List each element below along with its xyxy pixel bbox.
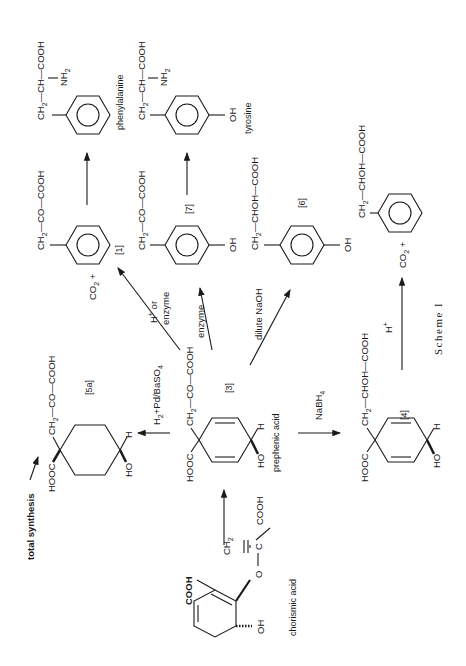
svg-text:COOH: COOH (254, 496, 265, 525)
compound-5a-label: [5a] (84, 380, 94, 395)
svg-text:CH2—CH—COOH: CH2—CH—COOH (35, 41, 48, 120)
svg-text:C: C (253, 543, 264, 550)
cyclohexadiene-ring-icon (199, 418, 251, 462)
phenyllactic-structure: CH2—CHOH—COOH CO2 + (356, 125, 422, 268)
svg-text:O: O (253, 571, 264, 578)
prephenic-acid-structure: CH2—CO—COOH HOOC H HO [3] prephenic acid (184, 346, 281, 482)
svg-text:HO: HO (255, 454, 266, 468)
reagent-nabh4: NaBH4 (313, 391, 326, 420)
scheme-title: Scheme I (432, 302, 444, 355)
svg-text:H: H (431, 423, 442, 430)
svg-text:CO2 +: CO2 + (397, 241, 410, 268)
svg-text:HO: HO (123, 463, 134, 477)
reagent-h-plus: H+ (382, 322, 394, 333)
arrow-total-synthesis (30, 457, 38, 480)
reaction-scheme: CH2—CH—COOH NH2 phenylalanine CH2—CO—COO… (0, 0, 466, 666)
compound-6-structure: CH2—CHOH—COOH OH [6] (249, 157, 353, 264)
svg-text:NH2: NH2 (158, 68, 171, 86)
svg-text:CH2—CO—COOH: CH2—CO—COOH (35, 170, 48, 250)
tyrosine-label: tyrosine (243, 102, 253, 134)
svg-text:H: H (255, 423, 266, 430)
compound-6-label: [6] (297, 198, 307, 208)
svg-text:CH2—CH—COOH: CH2—CH—COOH (136, 41, 149, 120)
tyrosine-structure: CH2—CH—COOH NH2 OH tyrosine (136, 41, 253, 134)
svg-text:OH: OH (227, 238, 238, 252)
compound-1-structure: CH2—CO—COOH [1] CO2 + (35, 170, 124, 300)
svg-text:CH2: CH2 (221, 537, 234, 555)
compound-4-label: [4] (399, 410, 409, 420)
svg-text:CH2—CHOH—COOH: CH2—CHOH—COOH (249, 157, 262, 250)
svg-text:H: H (123, 431, 134, 438)
benzene-ring-icon (378, 194, 422, 232)
cyclohexane-ring-icon (60, 425, 120, 475)
benzene-ring-icon (66, 96, 110, 134)
compound-3-label: [3] (224, 383, 234, 393)
svg-text:OH: OH (342, 238, 353, 252)
svg-text:CH2—CO—COOH: CH2—CO—COOH (136, 170, 149, 250)
svg-text:CH2—CHOH—COOH: CH2—CHOH—COOH (359, 333, 372, 426)
reagent-enzyme-1: enzyme (160, 292, 171, 325)
benzene-ring-icon (280, 226, 324, 264)
svg-text:HOOC: HOOC (359, 453, 370, 482)
compound-1-label: [1] (114, 245, 124, 255)
reagent-enzyme-2: enzyme (195, 305, 206, 338)
compound-7-label: [7] (184, 204, 194, 214)
compound-4-structure: CH2—CHOH—COOH HOOC H HO [4] (359, 333, 442, 482)
cyclohexadiene-ring-icon (375, 418, 427, 462)
svg-text:HO: HO (431, 454, 442, 468)
svg-text:CO2 +: CO2 + (87, 273, 100, 300)
cyclohexadiene-ring-icon (194, 590, 236, 637)
chorismic-acid-label: chorismic acid (288, 579, 298, 636)
svg-text:OH: OH (255, 620, 266, 634)
reagent-hydrogenation: H2+Pd/BaSO4 (151, 365, 164, 425)
reagent-dilute-naoh: dilute NaOH (253, 288, 264, 340)
phenylalanine-label: phenylalanine (115, 74, 125, 130)
benzene-ring-icon (165, 226, 209, 264)
benzene-ring-icon (66, 226, 110, 264)
total-synthesis-label: total synthesis (25, 493, 36, 560)
svg-text:CH2—CHOH—COOH: CH2—CHOH—COOH (356, 125, 369, 218)
benzene-ring-icon (165, 96, 209, 134)
reagent-acid: H+ or (147, 301, 159, 323)
phenylalanine-structure: CH2—CH—COOH NH2 phenylalanine (35, 41, 125, 134)
chorismic-acid-structure: COOH O C COOH CH2 OH chorismic acid (183, 496, 298, 637)
svg-text:CH2—CO—COOH: CH2—CO—COOH (46, 355, 59, 435)
svg-text:NH2: NH2 (58, 68, 71, 86)
prephenic-acid-label: prephenic acid (271, 413, 281, 472)
svg-text:OH: OH (227, 108, 238, 122)
svg-text:COOH: COOH (183, 576, 194, 605)
svg-text:CH2—CO—COOH: CH2—CO—COOH (184, 346, 197, 426)
svg-text:HOOC: HOOC (46, 463, 57, 492)
compound-5a-structure: CH2—CO—COOH HOOC H HO [5a] (46, 355, 134, 492)
svg-text:HOOC: HOOC (184, 453, 195, 482)
